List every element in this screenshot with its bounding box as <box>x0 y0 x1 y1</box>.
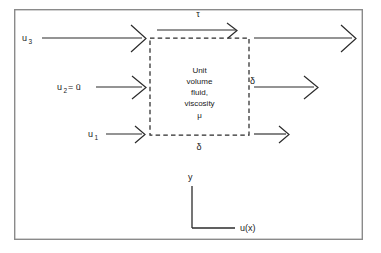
u1-base-label: u <box>88 129 93 139</box>
u1-subscript-label: 1 <box>95 134 99 141</box>
u3-base-label: u <box>22 33 27 43</box>
u3-subscript-label: 3 <box>29 38 33 45</box>
unit-volume-box <box>150 38 249 135</box>
figure-canvas: τ Unit volume fluid, viscosity μ δ δ u 3… <box>0 0 381 253</box>
coordinate-axes: y u(x) <box>188 172 256 233</box>
inflow-u3: u 3 <box>22 25 146 52</box>
box-text-line-1: Unit <box>192 66 207 75</box>
figure-border <box>15 10 363 240</box>
fluid-shear-diagram: τ Unit volume fluid, viscosity μ δ δ u 3… <box>0 0 381 253</box>
x-axis-label: u(x) <box>240 223 256 233</box>
inflow-u1: u 1 <box>88 126 145 143</box>
mu-symbol: μ <box>197 111 202 120</box>
shear-stress-group: τ <box>157 9 237 38</box>
delta-height-label: δ <box>250 76 255 86</box>
outflow-middle <box>254 76 318 99</box>
outflow-bottom <box>254 126 289 143</box>
y-axis-label: y <box>188 172 193 182</box>
u2-base-label: u <box>57 82 62 92</box>
box-text-line-4: viscosity <box>184 99 214 108</box>
u2-subscript-label: 2 <box>64 87 68 94</box>
delta-width-label: δ <box>196 142 201 152</box>
u2-equals-mean-label: = ū <box>68 82 81 92</box>
inflow-u2: u 2 = ū <box>57 76 146 99</box>
box-text-line-2: volume <box>187 77 213 86</box>
unit-volume-text: Unit volume fluid, viscosity μ <box>184 66 214 120</box>
box-text-line-3: fluid, <box>191 88 208 97</box>
tau-label: τ <box>196 9 200 19</box>
outflow-top <box>254 25 356 52</box>
